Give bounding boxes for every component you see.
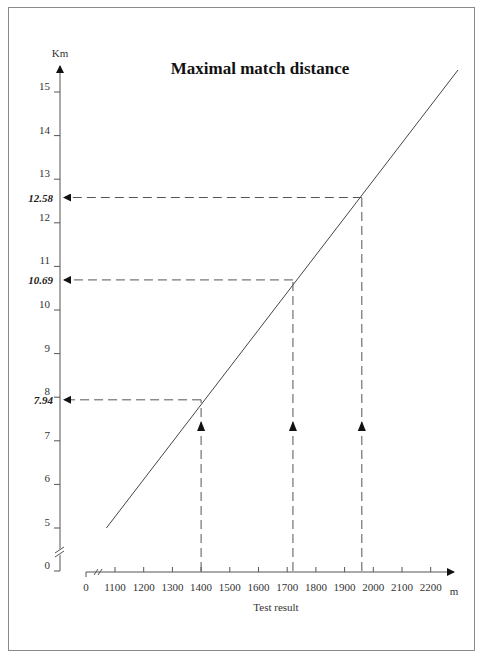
y-tick-label: 14 [39,124,51,136]
y-tick-label: 15 [39,80,51,92]
x-tick-label: 2000 [362,581,385,593]
y-tick-label: 7 [45,429,51,441]
reading-label: 7.94 [34,394,54,406]
y-axis: Km 056789101112131415 [39,47,69,571]
x-tick-label: 1300 [161,581,184,593]
y-tick-label: 6 [45,472,51,484]
y-tick-label: 10 [39,298,51,310]
reading-label: 10.69 [28,274,53,286]
x-tick-label: 1800 [305,581,328,593]
x-axis: 0110012001300140015001600170018001900200… [83,567,458,613]
x-tick-label: 1400 [190,581,213,593]
x-tick-label: 1200 [133,581,156,593]
x-tick-label: 0 [83,581,89,593]
up-arrow-icon [358,421,366,431]
x-tick-label: 1700 [276,581,299,593]
y-tick-label: 9 [45,342,51,354]
y-tick-label: 0 [45,559,51,571]
y-tick-label: 13 [39,167,51,179]
up-arrow-icon [197,421,205,431]
y-axis-label: Km [52,47,69,59]
series-line [106,70,458,528]
x-tick-label: 1600 [248,581,271,593]
y-tick-label: 5 [45,516,51,528]
x-axis-unit: m [450,585,459,597]
x-tick-label: 1900 [334,581,357,593]
x-tick-label: 2200 [420,581,443,593]
x-tick-label: 1100 [104,581,126,593]
y-tick-label: 12 [39,211,50,223]
chart-canvas: Maximal match distance Km 05678910111213… [0,0,482,665]
x-tick-label: 2100 [391,581,414,593]
x-tick-label: 1500 [219,581,242,593]
x-axis-label: Test result [253,601,298,613]
y-tick-label: 11 [39,254,50,266]
chart-title: Maximal match distance [171,59,350,78]
reading-label: 12.58 [28,192,53,204]
annotations: 7.9410.6912.58 [28,192,366,571]
up-arrow-icon [289,421,297,431]
